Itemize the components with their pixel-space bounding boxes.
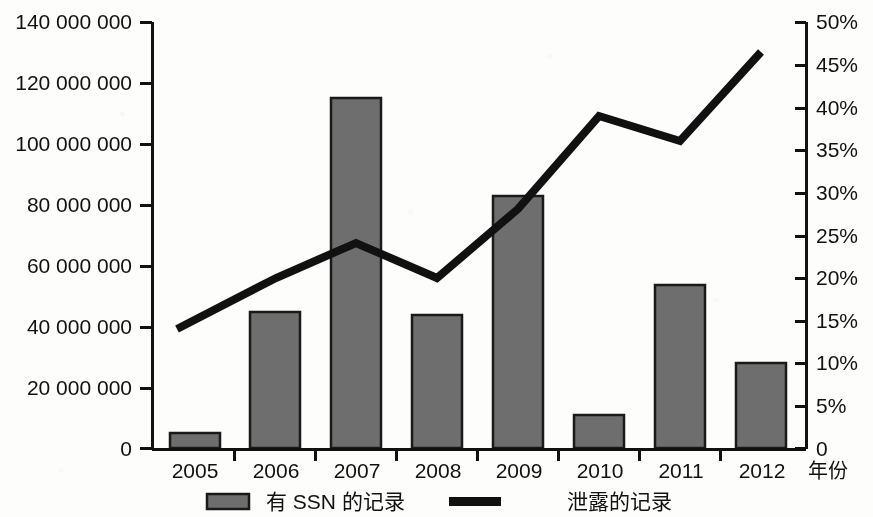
right-axis-tick-label: 10%	[816, 351, 858, 374]
legend-item-records-with-ssn[interactable]: 有 SSN 的记录	[207, 490, 405, 513]
bar-2007	[331, 98, 381, 448]
right-axis-tick-label: 0	[816, 437, 828, 460]
right-axis-tick-label: 40%	[816, 96, 858, 119]
bar-2010	[574, 415, 624, 448]
legend-item-breached-records[interactable]: 泄露的记录	[449, 490, 672, 513]
bar-2012	[736, 363, 786, 448]
legend-label-records-with-ssn: 有 SSN 的记录	[266, 490, 405, 513]
category-label-2005: 2005	[172, 459, 219, 482]
left-axis-tick-label: 120 000 000	[15, 71, 132, 94]
bar-2006	[250, 312, 300, 448]
right-axis-tick-label: 20%	[816, 266, 858, 289]
bar-2011	[655, 285, 705, 448]
bar-2008	[412, 315, 462, 448]
category-label-2007: 2007	[334, 459, 381, 482]
chart-svg: 140 000 000 120 000 000 100 000 000 80 0…	[0, 0, 873, 517]
category-label-2006: 2006	[253, 459, 300, 482]
category-label-2012: 2012	[739, 459, 786, 482]
legend-bar-swatch	[207, 494, 249, 509]
category-label-2011: 2011	[658, 459, 703, 482]
left-axis-tick-label: 140 000 000	[15, 10, 132, 33]
left-axis-tick-label: 60 000 000	[27, 254, 132, 277]
left-axis-tick-label: 40 000 000	[27, 315, 132, 338]
right-axis-tick-labels: 50% 45% 40% 35% 30% 25% 20% 15% 10% 5% 0	[816, 10, 858, 460]
bar-series-records-with-ssn	[170, 98, 786, 448]
right-axis-tick-label: 50%	[816, 10, 858, 33]
right-axis-tick-label: 25%	[816, 224, 858, 247]
x-axis-title: 年份	[808, 460, 848, 482]
right-axis-tick-label: 15%	[816, 309, 858, 332]
chart-legend: 有 SSN 的记录 泄露的记录	[207, 490, 672, 513]
x-axis	[152, 450, 806, 462]
right-axis	[795, 22, 807, 449]
category-label-2010: 2010	[577, 459, 624, 482]
category-label-2008: 2008	[415, 459, 462, 482]
right-axis-tick-label: 45%	[816, 53, 858, 76]
left-axis-tick-label: 100 000 000	[15, 132, 132, 155]
left-axis	[140, 22, 153, 449]
category-label-2009: 2009	[496, 459, 543, 482]
x-axis-category-labels: 2005 2006 2007 2008 2009 2010 2011 2012 …	[172, 459, 848, 482]
bar-2005	[170, 433, 220, 448]
left-axis-tick-label: 0	[120, 437, 132, 460]
right-axis-tick-label: 30%	[816, 181, 858, 204]
left-axis-tick-label: 20 000 000	[27, 376, 132, 399]
right-axis-tick-label: 35%	[816, 138, 858, 161]
dual-axis-chart-figure: 140 000 000 120 000 000 100 000 000 80 0…	[0, 0, 873, 517]
legend-label-breached-records: 泄露的记录	[567, 490, 672, 513]
left-axis-tick-label: 80 000 000	[27, 193, 132, 216]
right-axis-tick-label: 5%	[816, 394, 846, 417]
bar-2009	[493, 196, 543, 448]
left-axis-tick-labels: 140 000 000 120 000 000 100 000 000 80 0…	[15, 10, 132, 460]
